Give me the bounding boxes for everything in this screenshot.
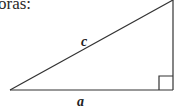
right-angle-marker (159, 76, 173, 90)
right-triangle-diagram: c a (0, 0, 180, 108)
hypotenuse-label: c (81, 34, 88, 49)
base-label: a (77, 94, 84, 108)
hypotenuse-line (10, 0, 173, 90)
